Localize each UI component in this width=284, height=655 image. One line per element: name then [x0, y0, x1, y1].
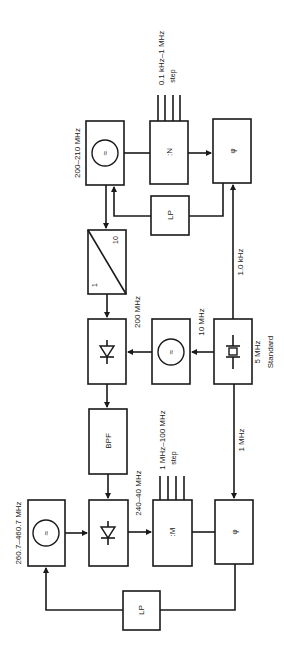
mixer-top-freq-label: 200 MHz [133, 296, 142, 328]
ratio-label-10: 10 [112, 236, 119, 244]
phase-top-symbol: φ [228, 148, 237, 153]
oscillator-symbol: ≈ [101, 150, 110, 155]
divider-n-range-label: 0.1 kHz–1 MHz [157, 31, 166, 86]
bpf-label: BPF [104, 433, 113, 449]
divider-n-label: :N [165, 148, 174, 156]
oscillator-symbol: ≈ [42, 530, 51, 535]
divider-n-inputs [158, 95, 180, 121]
standard-oscillator-block [214, 319, 252, 384]
divider-m-label: :M [168, 527, 177, 536]
ref-1mhz-label: 1 MHz [237, 428, 246, 451]
lowpass-top-block: LP [151, 196, 189, 235]
bandpass-filter-block: BPF [89, 409, 127, 474]
phase-detector-bottom-block: φ [215, 500, 253, 564]
vco-mid-freq-label: 10 MHz [197, 308, 206, 336]
ref-1khz-label: 1.0 kHz [236, 248, 245, 275]
lowpass-top-label: LP [166, 210, 175, 220]
mixer-top-block [88, 319, 126, 384]
standard-label: Standard [266, 336, 275, 368]
standard-freq-label: 5 MHz [253, 340, 262, 363]
mixer-bottom-freq-label: 240–40 MHz [134, 470, 143, 515]
wire-phase-to-lp [189, 183, 223, 216]
divider-m-inputs [160, 476, 184, 500]
divider-m-block: :M [153, 500, 192, 566]
vco-bottom-freq-label: 260.7–460.7 MHz [14, 501, 23, 564]
lowpass-bottom-block: LP [123, 591, 160, 630]
divider-n-step-label: step [169, 69, 177, 82]
phase-bottom-symbol: φ [230, 529, 239, 534]
phase-detector-top-block: φ [213, 119, 251, 183]
wire-lp-to-vco [114, 187, 151, 216]
ratio-divider-block: 10 1 [88, 230, 126, 294]
divider-m-range-label: 1 MHz–100 MHz [158, 410, 167, 470]
oscillator-symbol: ≈ [167, 349, 176, 354]
divider-m-step-label: step [170, 451, 178, 464]
wire-lp-to-vco-bottom [46, 568, 123, 610]
vco-top-freq-label: 200–210 MHz [73, 128, 82, 178]
mixer-bottom-block [89, 500, 128, 566]
pll-synthesizer-diagram: ≈ 200–210 MHz :N 0.1 kHz–1 MHz step φ LP… [0, 0, 284, 655]
vco-top-block: ≈ [86, 121, 124, 185]
divider-n-block: :N [150, 121, 188, 184]
wire-phase-to-lp-bottom [160, 564, 235, 610]
vco-bottom-block: ≈ [28, 500, 65, 566]
vco-mid-block: ≈ [152, 319, 190, 384]
ratio-label-1: 1 [91, 283, 98, 287]
lowpass-bottom-label: LP [137, 605, 146, 615]
